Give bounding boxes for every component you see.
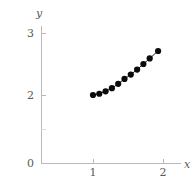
data-point [121,76,127,82]
data-point [96,91,102,97]
data-point [140,61,146,67]
data-point [134,66,140,72]
data-point [155,48,161,54]
plot-area [0,0,195,194]
data-point [128,71,134,77]
data-point [115,81,121,87]
data-series-points [90,48,161,98]
data-point [103,88,109,94]
data-point [90,92,96,98]
scatter-plot-figure: 3 2 0 1 2 y x [0,0,195,194]
data-point [109,85,115,91]
data-point [147,55,153,61]
